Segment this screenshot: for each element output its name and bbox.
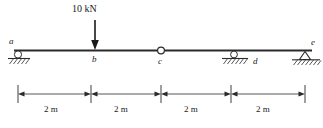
beam-diagram: 10 kN a b c: [0, 0, 323, 128]
beam-diagram-canvas: 10 kN a b c: [0, 0, 323, 128]
internal-hinge-c: [158, 47, 165, 54]
dimension-segment-1: 2 m: [18, 92, 91, 114]
dimension-segment-2: 2 m: [91, 92, 161, 114]
support-e-pin: [292, 52, 321, 66]
node-label-d: d: [253, 56, 258, 66]
dimension-label-3: 2 m: [184, 104, 198, 114]
support-a-roller: [8, 51, 30, 64]
node-label-b: b: [92, 54, 97, 64]
node-label-e: e: [311, 37, 315, 47]
dimension-label-1: 2 m: [44, 104, 58, 114]
dimension-label-2: 2 m: [114, 104, 128, 114]
dimension-segment-3: 2 m: [161, 92, 231, 114]
support-d-roller: [222, 51, 248, 64]
load-arrow: [91, 20, 99, 50]
dimension-label-4: 2 m: [256, 104, 270, 114]
node-label-c: c: [158, 56, 162, 66]
dimension-segment-4: 2 m: [231, 92, 305, 114]
node-label-a: a: [9, 36, 14, 46]
load-label: 10 kN: [72, 3, 97, 14]
